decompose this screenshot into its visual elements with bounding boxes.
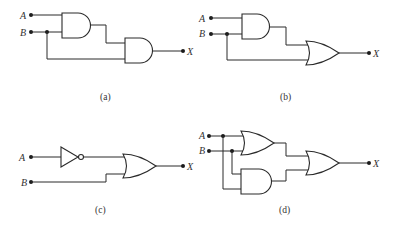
wire <box>269 27 309 45</box>
circuit-a: A B X (a) <box>19 10 194 103</box>
output-label: X <box>372 48 380 59</box>
circuit-c: A B X (c) <box>18 147 194 216</box>
input-label-a: A <box>19 10 27 21</box>
and-gate <box>242 14 269 39</box>
circuit-d: A B X (d) <box>198 130 380 216</box>
output-terminal <box>367 161 371 165</box>
caption-b: (b) <box>280 92 291 103</box>
input-label-a: A <box>198 13 206 24</box>
wire <box>232 151 241 174</box>
input-label-b: B <box>199 145 205 156</box>
wire <box>227 34 309 60</box>
input-label-b: B <box>21 177 27 188</box>
and-gate-2 <box>125 38 153 63</box>
wire <box>31 174 127 182</box>
output-terminal <box>367 51 371 55</box>
or-gate-1 <box>241 131 274 155</box>
inverter-bubble <box>79 155 84 160</box>
and-gate <box>241 169 272 194</box>
input-label-a: A <box>18 152 26 163</box>
wire <box>90 25 125 43</box>
output-terminal <box>181 49 185 53</box>
or-gate <box>123 154 156 178</box>
and-gate-1 <box>62 13 91 38</box>
circuit-b: A B X (b) <box>198 13 380 103</box>
wire <box>274 143 309 156</box>
caption-c: (c) <box>95 205 106 216</box>
input-label-b: B <box>199 28 205 39</box>
output-label: X <box>186 161 194 172</box>
wire <box>47 32 125 59</box>
output-label: X <box>372 158 380 169</box>
wire <box>271 170 309 181</box>
or-gate <box>306 41 339 65</box>
output-label: X <box>186 46 194 57</box>
not-gate <box>61 147 78 167</box>
logic-circuits-figure: A B X (a) A B X (b) A B <box>0 0 396 225</box>
or-gate-2 <box>306 151 339 175</box>
caption-d: (d) <box>279 205 290 216</box>
output-terminal <box>181 164 185 168</box>
input-label-b: B <box>20 27 26 38</box>
input-label-a: A <box>198 130 206 141</box>
caption-a: (a) <box>100 92 111 103</box>
